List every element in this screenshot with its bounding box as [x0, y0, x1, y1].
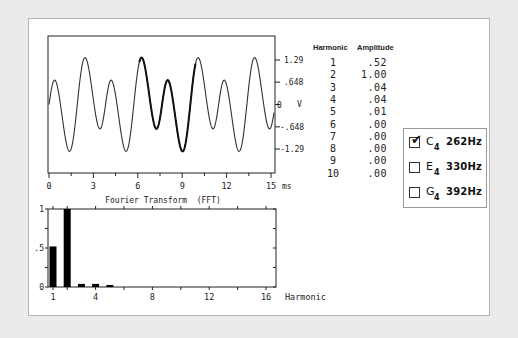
note-frequency: 262Hz: [446, 136, 482, 147]
fft-chart: Fourier Transform (FFT) 1481216 1.50 Har…: [34, 196, 326, 302]
fft-x-tick-label: 12: [204, 292, 214, 302]
fft-x-tick-label: 4: [93, 292, 98, 302]
checkmark-icon: ✔: [411, 133, 422, 146]
fft-bar: [50, 246, 57, 287]
waveform-y-tick-label: -.648: [280, 123, 304, 132]
table-row: 9.00: [313, 155, 413, 167]
waveform-y-unit: V: [297, 100, 302, 109]
amplitude-value: .00: [357, 143, 387, 154]
amplitude-value: .52: [357, 57, 387, 68]
fft-bar: [64, 209, 71, 287]
fft-y-tick-label: 0: [39, 283, 44, 292]
amplitude-value: 1.00: [357, 69, 387, 80]
waveform-x-axis: 03691215: [46, 173, 276, 191]
fft-x-tick-label: 1: [50, 292, 55, 302]
waveform-y-tick-label: 1.29: [284, 56, 303, 65]
waveform-chart: 03691215 1.29.6480-.648-1.29 ms V: [46, 36, 304, 191]
note-octave: 4: [434, 143, 440, 152]
fft-y-tick-label: 1: [39, 205, 44, 214]
amplitude-value: .00: [357, 119, 387, 130]
amplitude-value: .00: [357, 131, 387, 142]
waveform-x-tick-label: 9: [180, 181, 185, 191]
amplitude-value: .00: [357, 155, 387, 166]
waveform-x-tick-label: 15: [266, 181, 276, 191]
checkbox[interactable]: ✔: [409, 137, 420, 148]
waveform-x-tick-label: 0: [46, 181, 51, 191]
note-option-g4[interactable]: G4392Hz: [408, 184, 486, 202]
harmonic-number: 7: [313, 131, 353, 142]
table-row: 21.00: [313, 69, 413, 81]
fft-bar: [78, 284, 85, 287]
checkbox[interactable]: [409, 162, 420, 173]
waveform-y-tick-label: .648: [284, 78, 303, 87]
note-name: C: [426, 135, 434, 148]
fft-bar: [92, 284, 99, 287]
harmonic-number: 3: [313, 82, 353, 93]
harmonic-number: 8: [313, 143, 353, 154]
fft-x-tick-label: 8: [150, 292, 155, 302]
waveform-x-tick-label: 3: [91, 181, 96, 191]
table-row: 1.52: [313, 57, 413, 69]
harmonic-number: 6: [313, 119, 353, 130]
fft-bars: [50, 209, 114, 287]
harmonic-table: Harmonic Amplitude 1.5221.003.044.045.01…: [313, 43, 413, 183]
fft-frame: [48, 209, 276, 287]
amplitude-value: .04: [357, 94, 387, 105]
fft-x-label: Harmonic: [285, 292, 326, 302]
table-row: 3.04: [313, 82, 413, 94]
fft-title: Fourier Transform (FFT): [105, 196, 221, 205]
table-row: 6.00: [313, 119, 413, 131]
checkbox[interactable]: [409, 187, 420, 198]
table-row: 10.00: [313, 168, 413, 180]
table-row: 4.04: [313, 94, 413, 106]
note-name: E: [426, 160, 433, 173]
harmonic-number: 5: [313, 106, 353, 117]
note-option-c4[interactable]: ✔C4262Hz: [408, 134, 486, 152]
fft-bar: [106, 285, 113, 287]
waveform-y-tick-label: -1.29: [280, 145, 304, 154]
fft-x-axis: 1481216: [50, 206, 271, 302]
harmonic-number: 4: [313, 94, 353, 105]
waveform-x-tick-label: 6: [135, 181, 140, 191]
harmonic-number: 9: [313, 155, 353, 166]
waveform-x-unit: ms: [282, 182, 292, 191]
waveform-x-tick-label: 12: [221, 181, 231, 191]
waveform-y-tick-label: 0: [277, 101, 282, 110]
fft-x-tick-label: 16: [261, 292, 271, 302]
waveform-highlight-period: [139, 58, 195, 152]
header-harmonic: Harmonic: [313, 43, 348, 52]
harmonic-number: 2: [313, 69, 353, 80]
note-frequency: 330Hz: [446, 161, 482, 172]
note-option-e4[interactable]: E4330Hz: [408, 159, 486, 177]
header-amplitude: Amplitude: [357, 43, 394, 52]
note-octave: 4: [434, 168, 440, 177]
note-frequency: 392Hz: [446, 186, 482, 197]
note-octave: 4: [434, 193, 440, 202]
table-row: 7.00: [313, 131, 413, 143]
amplitude-value: .00: [357, 168, 387, 179]
table-row: 5.01: [313, 106, 413, 118]
harmonic-number: 10: [313, 168, 353, 179]
amplitude-value: .01: [357, 106, 387, 117]
fft-y-tick-label: .5: [34, 244, 44, 253]
table-row: 8.00: [313, 143, 413, 155]
note-selector: ✔C4262HzE4330HzG4392Hz: [403, 128, 487, 208]
harmonic-number: 1: [313, 57, 353, 68]
amplitude-value: .04: [357, 82, 387, 93]
